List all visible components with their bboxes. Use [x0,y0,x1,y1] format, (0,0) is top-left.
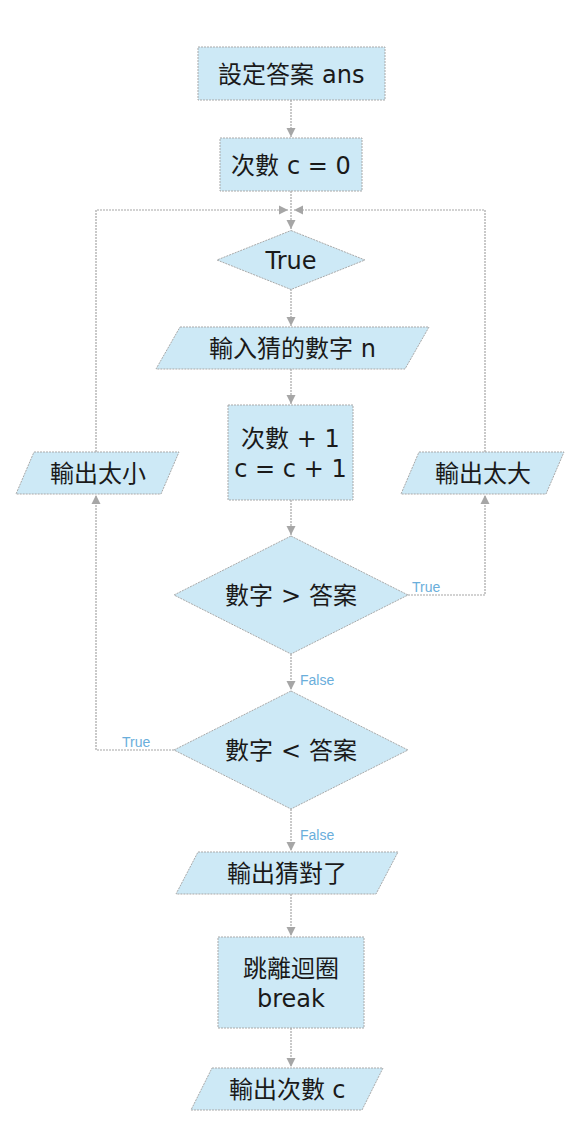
node-label: True [265,247,317,275]
arrowhead-icon [287,317,296,326]
node-label: 輸出猜對了 [227,860,347,888]
edge-out_correct-to-break_loop [287,894,296,936]
arrowhead-icon [287,681,296,690]
edge-break_loop-to-out_count [287,1028,296,1067]
flowchart-canvas: TrueFalseTrueFalse 設定答案 ans次數 c = 0True輸… [0,0,581,1135]
arrowhead-icon [287,927,296,936]
arrowhead-icon [287,395,296,404]
edge-count_inc-to-cmp_greater [287,500,296,535]
edge-cmp_less-to-out_correct: False [287,809,335,851]
node-count_init: 次數 c = 0 [220,138,362,191]
node-out_too_big: 輸出太大 [401,452,564,494]
process-box [218,937,364,1028]
process-box [228,405,353,500]
arrowhead-icon [287,1058,296,1067]
edge-cmp_greater-to-cmp_less: False [287,654,335,690]
node-label: 數字 < 答案 [225,737,356,765]
nodes-layer: 設定答案 ans次數 c = 0True輸入猜的數字 n次數 + 1c = c … [16,47,564,1110]
arrowhead-icon [287,842,296,851]
node-label: 設定答案 ans [218,61,364,89]
node-out_correct: 輸出猜對了 [176,852,398,894]
edge-cmp_greater-to-out_too_big: True [408,495,490,595]
node-label: 次數 c = 0 [231,152,350,180]
node-break_loop: 跳離迴圈break [218,937,364,1028]
edge-label: True [412,579,440,595]
edge-label: False [300,827,334,843]
arrowhead-icon [279,206,288,215]
node-set_answer: 設定答案 ans [198,47,385,100]
arrowhead-icon [287,526,296,535]
node-label: 輸出太大 [435,460,531,488]
node-label: c = c + 1 [234,455,346,483]
edge-input_guess-to-count_inc [287,369,296,404]
node-loop_true: True [217,231,365,290]
edge-loop_true-to-input_guess [287,289,296,326]
node-label: 跳離迴圈 [243,955,339,983]
arrowhead-icon [294,206,303,215]
node-count_inc: 次數 + 1c = c + 1 [228,405,353,500]
connector-line [96,495,174,750]
node-input_guess: 輸入猜的數字 n [156,327,429,369]
node-cmp_less: 數字 < 答案 [174,691,408,809]
edge-cmp_less-to-out_too_small: True [92,495,175,750]
node-label: 輸入猜的數字 n [209,335,376,363]
edge-set_answer-to-count_init [287,100,296,137]
arrowhead-icon [287,220,296,229]
node-out_count: 輸出次數 c [191,1068,383,1110]
node-cmp_greater: 數字 > 答案 [174,536,408,654]
node-label: 數字 > 答案 [225,582,356,610]
node-out_too_small: 輸出太小 [16,452,179,494]
arrowhead-icon [287,128,296,137]
node-label: 次數 + 1 [241,425,340,453]
node-label: break [257,985,325,1013]
node-label: 輸出次數 c [229,1076,346,1104]
arrowhead-icon [481,495,490,504]
edge-label: True [122,734,150,750]
node-label: 輸出太小 [50,460,146,488]
edge-label: False [300,672,334,688]
arrowhead-icon [92,495,101,504]
